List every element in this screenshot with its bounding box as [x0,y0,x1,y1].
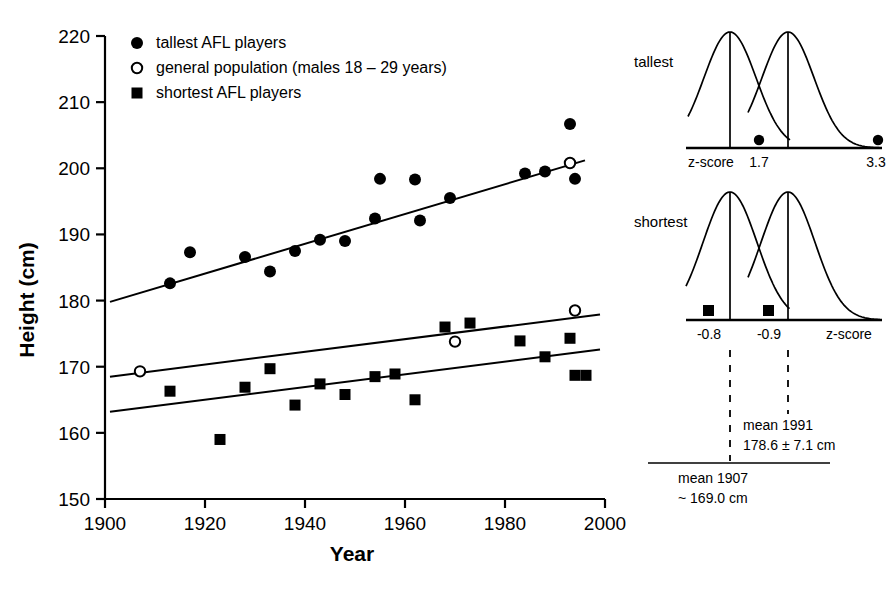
data-point [581,370,592,381]
data-point [539,166,551,178]
data-point [540,351,551,362]
data-point [164,277,176,289]
panels-svg: tallest z-score 1.7 3.3 shortest [630,0,888,530]
general-population-trend [110,314,600,376]
data-point [265,363,276,374]
y-axis-ticks: 150160170180190200210220 [58,26,105,510]
data-point [374,173,386,185]
legend-label: shortest AFL players [156,84,301,101]
y-tick-label: 180 [58,291,90,312]
data-point [370,371,381,382]
y-tick-label: 190 [58,224,90,245]
data-point [565,333,576,344]
data-point [444,192,456,204]
tallest-trend [110,160,585,302]
mean-annotations: mean 1991 178.6 ± 7.1 cm mean 1907 ~ 169… [648,350,836,506]
data-points [135,118,592,445]
y-tick-label: 160 [58,423,90,444]
data-point [410,394,421,405]
data-point [450,336,460,346]
legend-marker-1 [132,63,142,73]
data-point [390,368,401,379]
x-axis-ticks: 190019201940196019802000 [84,499,626,534]
data-point [165,386,176,397]
x-tick-label: 1960 [384,513,426,534]
data-point [264,265,276,277]
trend-lines [110,160,600,411]
data-point [569,173,581,185]
data-point [289,245,301,257]
data-point [339,235,351,247]
shortest-curve-1991 [748,192,880,320]
shortest-zscore-label: z-score [826,326,872,342]
x-axis-title: Year [330,542,374,565]
tallest-curve-1907 [688,32,790,140]
data-point [515,335,526,346]
y-tick-label: 150 [58,489,90,510]
tallest-tick-2: 3.3 [866,154,886,170]
figure-root: Height (cm) Year 15016017018019020021022… [0,0,888,591]
shortest-tick-1: -0.8 [697,326,721,342]
tallest-zscore-label: z-score [688,154,734,170]
tallest-panel: tallest z-score 1.7 3.3 [634,32,886,170]
data-point [135,366,145,376]
mean-1991-line1: mean 1991 [743,417,813,433]
data-point [184,246,196,258]
main-plot-svg: Height (cm) Year 15016017018019020021022… [0,0,640,591]
y-tick-label: 210 [58,92,90,113]
legend-marker-0 [131,37,143,49]
y-tick-label: 200 [58,158,90,179]
mean-1907-line1: mean 1907 [678,470,748,486]
data-point [215,434,226,445]
main-scatter-plot: Height (cm) Year 15016017018019020021022… [0,0,640,591]
data-point [414,215,426,227]
tallest-marker-1 [754,135,764,145]
x-tick-label: 1940 [284,513,326,534]
x-tick-label: 1900 [84,513,126,534]
mean-1907-line2: ~ 169.0 cm [678,490,748,506]
tallest-panel-label: tallest [634,53,674,70]
data-point [409,174,421,186]
data-point [315,378,326,389]
shortest-marker-2 [763,305,774,316]
z-score-panels: tallest z-score 1.7 3.3 shortest [630,0,888,530]
data-point [440,322,451,333]
x-tick-label: 1920 [184,513,226,534]
data-point [369,213,381,225]
data-point [565,158,575,168]
tallest-tick-1: 1.7 [749,154,769,170]
data-point [239,251,251,263]
data-point [240,382,251,393]
tallest-curve-1991 [748,32,880,148]
shortest-tick-2: -0.9 [757,326,781,342]
legend: tallest AFL playersgeneral population (m… [131,34,447,101]
data-point [519,168,531,180]
shortest-panel: shortest z-score -0.8 -0.9 [634,192,882,342]
shortest-marker-1 [703,305,714,316]
data-point [570,370,581,381]
y-tick-label: 220 [58,26,90,47]
mean-1991-line2: 178.6 ± 7.1 cm [743,437,836,453]
data-point [290,400,301,411]
data-point [564,118,576,130]
y-axis-title: Height (cm) [15,242,38,358]
x-tick-label: 2000 [584,513,626,534]
x-tick-label: 1980 [484,513,526,534]
data-point [314,234,326,246]
data-point [340,389,351,400]
data-point [570,305,580,315]
legend-marker-2 [132,88,143,99]
data-point [465,318,476,329]
legend-label: tallest AFL players [156,34,286,51]
legend-label: general population (males 18 – 29 years) [156,59,447,76]
y-tick-label: 170 [58,357,90,378]
tallest-marker-2 [873,135,883,145]
shortest-trend [110,350,600,412]
shortest-panel-label: shortest [634,213,688,230]
axis-frame [105,36,605,499]
